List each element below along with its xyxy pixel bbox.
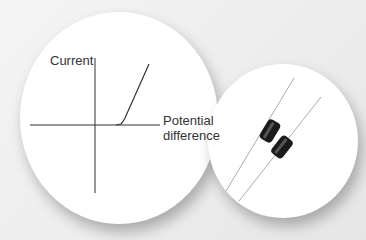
x-axis-label-line1: Potential bbox=[163, 113, 214, 128]
x-axis-label-line2: difference bbox=[163, 128, 220, 143]
iv-curve bbox=[116, 64, 149, 125]
y-axis-label: Current bbox=[50, 53, 93, 68]
